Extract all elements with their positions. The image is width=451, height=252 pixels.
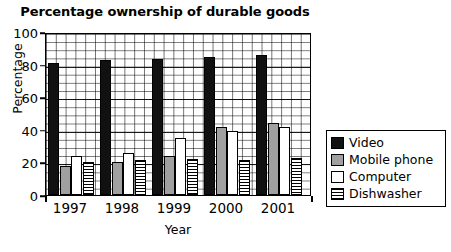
legend-label: Video: [349, 136, 384, 149]
bar-computer-1999: [175, 138, 186, 195]
y-tick-label: 80: [0, 59, 38, 72]
bar-mobile-phone-1999: [164, 156, 175, 195]
bar-video-1998: [100, 60, 111, 195]
x-tick-label: 1999: [144, 200, 204, 216]
bar-video-2001: [256, 55, 267, 195]
bar-mobile-phone-1998: [112, 162, 123, 195]
legend-label: Computer: [349, 170, 411, 183]
bar-dishwasher-2000: [239, 160, 250, 195]
x-tick-label: 2000: [196, 200, 256, 216]
y-tick-label: 60: [0, 92, 38, 105]
y-tick-label: 0: [0, 190, 38, 203]
x-tick-label: 2001: [248, 200, 308, 216]
legend-item-mobile-phone[interactable]: Mobile phone: [331, 151, 441, 168]
y-tick-label: 40: [0, 124, 38, 137]
legend-item-dishwasher[interactable]: Dishwasher: [331, 185, 441, 202]
legend-label: Mobile phone: [349, 153, 433, 166]
legend-swatch-icon: [331, 154, 344, 166]
bar-video-1997: [48, 63, 59, 195]
bar-dishwasher-1998: [135, 160, 146, 195]
y-tick-label: 100: [0, 27, 38, 40]
legend-swatch-icon: [331, 171, 344, 183]
bar-computer-2001: [279, 127, 290, 195]
bar-group: [152, 34, 198, 195]
legend-item-video[interactable]: Video: [331, 134, 441, 151]
legend-label: Dishwasher: [349, 187, 422, 200]
x-tick-label: 1997: [40, 200, 100, 216]
bar-mobile-phone-2000: [216, 127, 227, 195]
bar-group: [204, 34, 250, 195]
bar-video-2000: [204, 57, 215, 195]
legend-swatch-icon: [331, 137, 344, 149]
x-tick-mark: [45, 196, 47, 202]
bar-chart-figure: Percentage ownership of durable goods Pe…: [0, 0, 451, 252]
bar-computer-1997: [71, 156, 82, 195]
bar-mobile-phone-2001: [268, 123, 279, 195]
bar-group: [100, 34, 146, 195]
bar-dishwasher-1997: [83, 162, 94, 195]
bar-dishwasher-1999: [187, 159, 198, 195]
bar-computer-2000: [227, 131, 238, 195]
bar-computer-1998: [123, 153, 134, 195]
bar-group: [256, 34, 302, 195]
plot-area: [45, 33, 311, 196]
legend-item-computer[interactable]: Computer: [331, 168, 441, 185]
chart-legend: VideoMobile phoneComputerDishwasher: [326, 130, 446, 207]
bar-dishwasher-2001: [291, 158, 302, 195]
x-tick-mark: [311, 196, 313, 202]
x-axis-label: Year: [45, 222, 311, 237]
bar-video-1999: [152, 59, 163, 195]
y-tick-label: 20: [0, 157, 38, 170]
x-tick-label: 1998: [92, 200, 152, 216]
legend-swatch-icon: [331, 188, 344, 200]
bar-mobile-phone-1997: [60, 166, 71, 195]
bar-group: [48, 34, 94, 195]
chart-title: Percentage ownership of durable goods: [0, 4, 330, 19]
